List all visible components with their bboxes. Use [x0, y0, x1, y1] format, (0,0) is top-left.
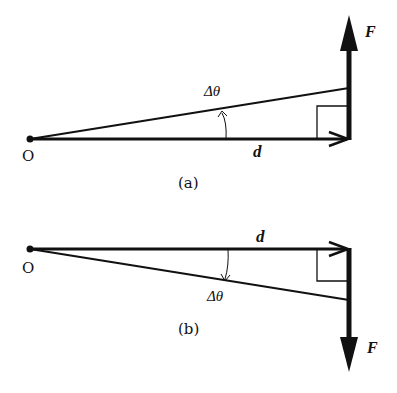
- angle-arc-b: [225, 249, 228, 279]
- caption-a: (a): [178, 176, 199, 191]
- torque-diagram: O d F Δθ (a) O d F Δθ (b): [0, 0, 397, 393]
- origin-label-b: O: [22, 261, 34, 276]
- panel-b: [27, 242, 359, 372]
- angle-label-b: Δθ: [207, 289, 223, 304]
- rotated-line-b: [30, 249, 349, 300]
- angle-arc-a: [222, 113, 226, 139]
- vector-F-label-b: F: [367, 340, 378, 356]
- panel-a: [27, 15, 359, 146]
- vector-F-arrowhead-b: [340, 337, 358, 372]
- vector-F-label-a: F: [365, 24, 376, 40]
- origin-label-a: O: [22, 149, 34, 164]
- rotated-line-a: [30, 88, 349, 139]
- caption-b: (b): [178, 322, 199, 337]
- vector-d-label-a: d: [253, 143, 262, 160]
- vector-F-arrowhead-a: [340, 15, 358, 51]
- angle-label-a: Δθ: [204, 84, 220, 99]
- vector-d-label-b: d: [256, 228, 265, 245]
